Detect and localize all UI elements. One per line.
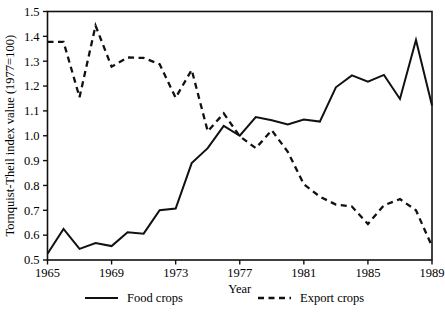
legend-label-food-crops: Food crops [127,291,183,305]
x-tick-label: 1973 [163,266,188,280]
y-tick-label: 1.1 [24,104,40,118]
x-axis-tick-labels: 1965196919731977198119851989 [35,266,445,280]
y-axis-tick-labels: 0.50.60.70.80.91.01.11.21.31.41.5 [24,5,40,268]
cropped-title-remnant [0,0,445,6]
y-tick-label: 1.4 [24,30,40,44]
line-chart: 0.50.60.70.80.91.01.11.21.31.41.5 196519… [0,0,445,315]
x-tick-label: 1977 [227,266,252,280]
x-axis-title: Year [228,282,252,296]
series-line-food-crops [48,40,433,254]
figure-container: 0.50.60.70.80.91.01.11.21.31.41.5 196519… [0,0,445,315]
x-tick-label: 1969 [99,266,124,280]
y-tick-label: 1.3 [24,55,40,69]
chart-legend: Food crops Export crops [85,291,364,305]
x-tick-label: 1981 [291,266,316,280]
y-tick-label: 0.9 [24,154,40,168]
x-tick-label: 1965 [35,266,60,280]
y-tick-label: 0.6 [24,228,40,242]
y-axis-title: Tornquist-Theil index value (1977=100) [3,35,17,237]
legend-label-export-crops: Export crops [300,291,364,305]
y-tick-label: 1.5 [24,5,40,19]
y-tick-label: 0.7 [24,204,40,218]
x-tick-label: 1989 [420,266,445,280]
y-tick-label: 1.0 [24,129,40,143]
y-tick-label: 0.8 [24,179,40,193]
x-tick-label: 1985 [355,266,380,280]
y-tick-label: 1.2 [24,79,40,93]
